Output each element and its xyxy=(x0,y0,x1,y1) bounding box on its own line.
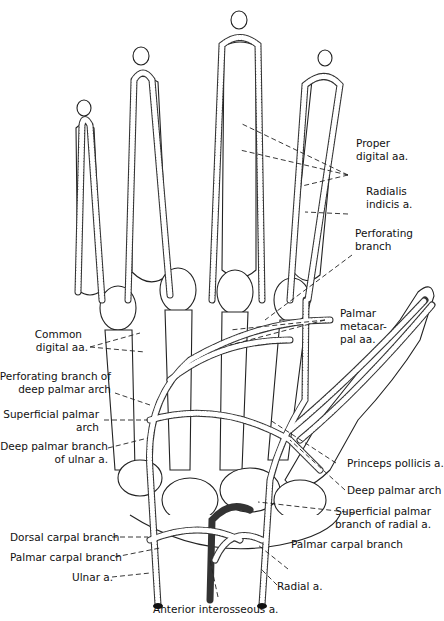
label-common-digital: Common digital aa. xyxy=(35,328,88,354)
label-radial: Radial a. xyxy=(277,580,323,593)
label-line: branch of radial a. xyxy=(335,518,431,531)
label-line: arch xyxy=(3,421,99,434)
label-line: digital aa. xyxy=(35,341,88,354)
label-perforating-deep-arch: Perforating branch of deep palmar arch xyxy=(0,370,111,396)
label-superficial-palmar-radial: Superficial palmar branch of radial a. xyxy=(335,505,431,531)
label-dorsal-carpal: Dorsal carpal branch xyxy=(10,531,119,544)
label-line: Deep palmar branch xyxy=(0,440,108,453)
label-line: Superficial palmar xyxy=(3,408,99,421)
label-line: of ulnar a. xyxy=(0,453,108,466)
label-deep-palmar-arch: Deep palmar arch xyxy=(347,484,441,497)
label-line: Proper xyxy=(356,137,408,150)
label-line: Common xyxy=(35,328,88,341)
label-line: indicis a. xyxy=(366,198,412,211)
label-perforating-branch: Perforating branch xyxy=(355,227,413,253)
label-radialis-indicis: Radialis indicis a. xyxy=(366,185,412,211)
label-superficial-palmar-arch: Superficial palmar arch xyxy=(3,408,99,434)
label-line: pal aa. xyxy=(340,333,387,346)
label-line: Perforating branch of xyxy=(0,370,111,383)
label-line: metacar- xyxy=(340,320,387,333)
label-line: deep palmar arch xyxy=(0,383,111,396)
label-anterior-interosseous: Anterior interosseous a. xyxy=(153,603,278,616)
label-line: branch xyxy=(355,240,413,253)
label-line: digital aa. xyxy=(356,150,408,163)
label-palmar-carpal-left: Palmar carpal branch xyxy=(10,551,122,564)
label-deep-palmar-branch-ulnar: Deep palmar branch of ulnar a. xyxy=(0,440,108,466)
label-ulnar: Ulnar a. xyxy=(72,571,113,584)
label-proper-digital: Proper digital aa. xyxy=(356,137,408,163)
label-line: Palmar xyxy=(340,307,387,320)
label-line: Superficial palmar xyxy=(335,505,431,518)
label-line: Radialis xyxy=(366,185,412,198)
label-line: Perforating xyxy=(355,227,413,240)
label-princeps-pollicis: Princeps pollicis a. xyxy=(347,457,444,470)
label-palmar-metacarpal: Palmar metacar- pal aa. xyxy=(340,307,387,346)
label-palmar-carpal-right: Palmar carpal branch xyxy=(291,538,403,551)
